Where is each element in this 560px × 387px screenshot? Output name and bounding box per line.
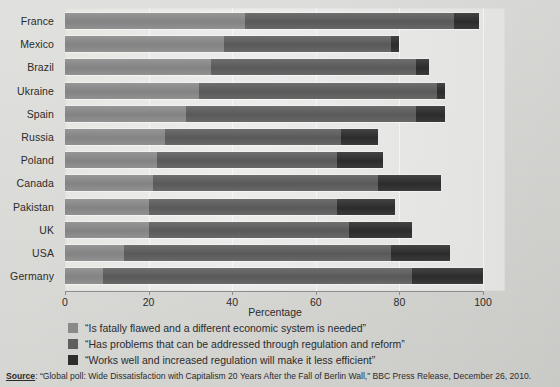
stacked-bar-brazil[interactable] [65,59,429,75]
legend-label-1: “Has problems that can be addressed thro… [85,338,405,350]
bar-segment-2[interactable] [454,13,479,29]
bar-segment-1[interactable] [149,199,337,215]
bar-row [65,13,505,29]
bar-segment-0[interactable] [65,175,153,191]
bar-segment-0[interactable] [65,152,157,168]
bar-segment-0[interactable] [65,36,224,52]
bar-row [65,245,505,261]
stacked-bar-poland[interactable] [65,152,383,168]
stacked-bar-usa[interactable] [65,245,450,261]
bar-row [65,59,505,75]
x-axis-line [65,291,483,292]
y-axis-label-uk: UK [0,222,54,238]
stacked-bar-ukraine[interactable] [65,83,445,99]
bar-segment-1[interactable] [211,59,416,75]
bar-row [65,36,505,52]
source-note: Source: “Global poll: Wide Dissatisfacti… [6,371,558,381]
bar-segment-2[interactable] [416,106,445,122]
chart-legend: “Is fatally flawed and a different econo… [68,320,548,368]
bar-segment-2[interactable] [337,199,396,215]
bar-row [65,83,505,99]
bar-row [65,106,505,122]
y-axis-label-mexico: Mexico [0,36,54,52]
bar-segment-2[interactable] [437,83,445,99]
bar-segment-2[interactable] [349,222,412,238]
x-tick-60 [316,291,317,295]
bar-segment-2[interactable] [412,268,483,284]
y-axis-label-usa: USA [0,245,54,261]
bar-segment-0[interactable] [65,222,149,238]
bar-segment-0[interactable] [65,83,199,99]
x-tick-100 [483,291,484,295]
bar-segment-0[interactable] [65,59,211,75]
bar-segment-1[interactable] [186,106,416,122]
bar-segment-0[interactable] [65,199,149,215]
legend-label-2: “Works well and increased regulation wil… [85,354,375,366]
y-axis-label-germany: Germany [0,268,54,284]
y-axis-label-france: France [0,13,54,29]
y-axis-labels: FranceMexicoBrazilUkraineSpainRussiaPola… [0,8,60,291]
bar-segment-1[interactable] [199,83,437,99]
legend-label-0: “Is fatally flawed and a different econo… [85,322,366,334]
bar-segment-2[interactable] [337,152,383,168]
stacked-bar-france[interactable] [65,13,479,29]
legend-swatch-icon-1 [68,339,78,349]
bar-segment-1[interactable] [149,222,350,238]
bar-segment-1[interactable] [224,36,391,52]
stacked-bar-pakistan[interactable] [65,199,395,215]
bar-segment-0[interactable] [65,13,245,29]
bar-row [65,199,505,215]
bar-segment-1[interactable] [124,245,392,261]
bar-row [65,268,505,284]
y-axis-label-pakistan: Pakistan [0,199,54,215]
bar-row [65,222,505,238]
source-label: Source [6,371,35,381]
legend-swatch-icon-0 [68,323,78,333]
bar-row [65,152,505,168]
bar-segment-1[interactable] [157,152,337,168]
bar-row [65,129,505,145]
source-text: : “Global poll: Wide Dissatisfaction wit… [35,371,531,381]
x-tick-80 [399,291,400,295]
bar-row [65,175,505,191]
stacked-bar-mexico[interactable] [65,36,399,52]
y-axis-label-russia: Russia [0,129,54,145]
y-axis-label-canada: Canada [0,175,54,191]
bar-segment-1[interactable] [153,175,379,191]
chart-plot-area [65,8,505,291]
legend-swatch-icon-2 [68,355,78,365]
stacked-bar-russia[interactable] [65,129,379,145]
legend-item-0[interactable]: “Is fatally flawed and a different econo… [68,320,548,335]
bar-segment-2[interactable] [341,129,379,145]
stacked-bar-canada[interactable] [65,175,441,191]
y-axis-label-ukraine: Ukraine [0,83,54,99]
bar-segment-0[interactable] [65,268,103,284]
bar-segment-0[interactable] [65,129,165,145]
y-axis-label-poland: Poland [0,152,54,168]
y-axis-label-brazil: Brazil [0,59,54,75]
x-axis-title: Percentage [65,306,485,318]
bar-segment-2[interactable] [391,36,399,52]
x-tick-20 [149,291,150,295]
bar-segment-1[interactable] [245,13,454,29]
stacked-bar-spain[interactable] [65,106,445,122]
legend-item-2[interactable]: “Works well and increased regulation wil… [68,352,548,367]
x-tick-40 [232,291,233,295]
stacked-bar-uk[interactable] [65,222,412,238]
stacked-bar-germany[interactable] [65,268,483,284]
bar-segment-2[interactable] [416,59,429,75]
bar-segment-1[interactable] [165,129,341,145]
bar-rows [65,8,505,291]
bar-segment-0[interactable] [65,106,186,122]
bar-segment-1[interactable] [103,268,412,284]
x-tick-0 [65,291,66,295]
bar-segment-0[interactable] [65,245,124,261]
figure-page: FranceMexicoBrazilUkraineSpainRussiaPola… [0,0,560,387]
bar-segment-2[interactable] [378,175,441,191]
y-axis-label-spain: Spain [0,106,54,122]
bar-segment-2[interactable] [391,245,450,261]
legend-item-1[interactable]: “Has problems that can be addressed thro… [68,336,548,351]
